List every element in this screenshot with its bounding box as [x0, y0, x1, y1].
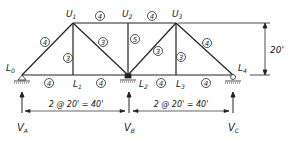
support-L4: [225, 75, 241, 84]
label-L3: L3: [176, 79, 185, 90]
svg-text:4: 4: [99, 80, 103, 88]
area-U2L2: 5: [131, 35, 140, 44]
span-label-right: 2 @ 20' = 40': [154, 100, 209, 109]
area-L2L3: 4: [157, 79, 166, 88]
height-label: 20': [270, 45, 284, 55]
svg-text:4: 4: [205, 40, 209, 48]
area-U1L2: 3: [99, 38, 108, 47]
label-L1: L1: [73, 79, 82, 90]
svg-text:4: 4: [159, 80, 163, 88]
span-dimensions: 2 @ 20' = 40' 2 @ 20' = 40': [25, 100, 229, 113]
svg-text:4: 4: [98, 13, 102, 21]
reaction-VA: VA: [17, 92, 28, 134]
member-L2-U3: [128, 23, 176, 75]
height-dimension: 20': [178, 23, 284, 75]
area-U3L4: 4: [203, 39, 212, 48]
span-label-left: 2 @ 20' = 40': [49, 100, 104, 109]
area-L0L1: 4: [45, 79, 54, 88]
svg-text:4: 4: [150, 13, 154, 21]
truss-diagram: L0 U1 U2 U3 L1 L2 L3 L4 4 4 4 4 4 4 4 4 …: [0, 0, 291, 144]
area-L1L2: 4: [97, 79, 106, 88]
member-L0-U1: [22, 23, 73, 75]
label-L0: L0: [6, 63, 15, 74]
area-L0U1: 4: [41, 38, 50, 47]
svg-text:VB: VB: [124, 122, 135, 134]
svg-text:4: 4: [47, 80, 51, 88]
svg-text:3: 3: [179, 54, 183, 62]
reaction-VB: VB: [124, 92, 135, 134]
svg-text:VA: VA: [17, 122, 28, 134]
svg-text:3: 3: [156, 48, 160, 56]
support-L0: [14, 75, 30, 83]
svg-text:3: 3: [101, 39, 105, 47]
label-L2: L2: [139, 79, 148, 90]
reaction-VC: VC: [228, 92, 240, 134]
area-U1L1: 3: [64, 54, 73, 63]
reactions: VA VB VC: [17, 92, 240, 134]
svg-text:VC: VC: [228, 122, 240, 134]
truss-members: [22, 23, 233, 75]
label-L4: L4: [238, 63, 247, 74]
member-U3-L4: [176, 23, 233, 75]
area-L2U3: 3: [154, 47, 163, 56]
label-U2: U2: [122, 9, 133, 20]
area-U3L3: 3: [177, 53, 186, 62]
area-U2U3: 4: [148, 12, 157, 21]
svg-text:4: 4: [204, 80, 208, 88]
svg-text:4: 4: [43, 39, 47, 47]
label-U3: U3: [172, 9, 183, 20]
area-U1U2: 4: [96, 12, 105, 21]
svg-text:3: 3: [66, 55, 70, 63]
label-U1: U1: [66, 9, 76, 20]
area-L3L4: 4: [202, 79, 211, 88]
member-U1-L2: [73, 23, 128, 75]
svg-text:5: 5: [133, 36, 138, 44]
